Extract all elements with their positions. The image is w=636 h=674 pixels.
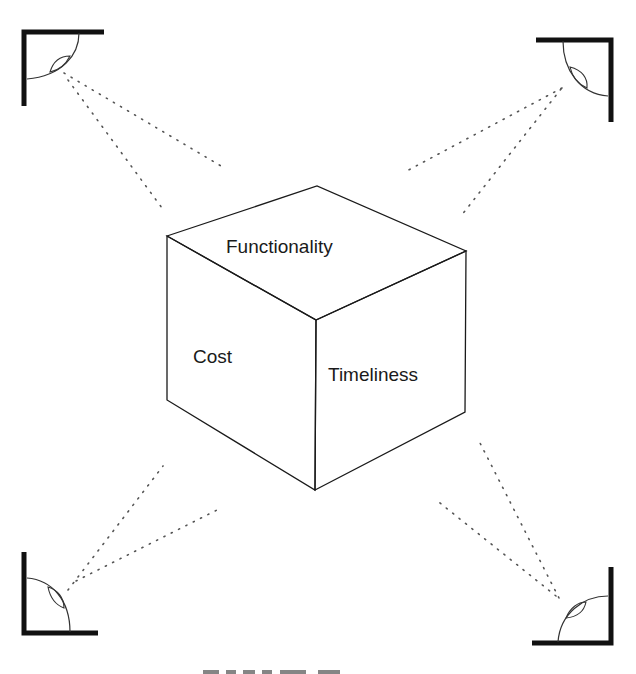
- corner-viewer-icon: [24, 552, 98, 633]
- viewer-top-right: [536, 40, 611, 122]
- face-label-right: Timeliness: [328, 364, 418, 385]
- corner-viewer-icon: [536, 40, 611, 122]
- viewer-bottom-left: [24, 552, 98, 633]
- sight-line-tl-2: [68, 80, 162, 208]
- cube-diagram: Functionality Cost Timeliness: [0, 0, 636, 674]
- sight-line-bl-1: [68, 466, 163, 590]
- viewer-top-left: [24, 32, 104, 106]
- cube: [167, 186, 466, 490]
- face-label-left: Cost: [193, 346, 233, 367]
- corner-viewer-icon: [24, 32, 104, 106]
- corner-viewer-icon: [532, 567, 611, 643]
- sight-lines: [64, 73, 562, 598]
- sight-line-tl-1: [64, 73, 221, 166]
- sight-line-br-1: [478, 439, 559, 598]
- sight-line-tr-2: [461, 89, 561, 216]
- sight-line-br-2: [435, 499, 556, 596]
- sight-line-bl-2: [76, 509, 219, 581]
- cube-left-face: [167, 236, 316, 490]
- figure-caption-cutoff: [203, 670, 340, 674]
- face-label-top: Functionality: [226, 236, 333, 257]
- sight-line-tr-1: [403, 88, 562, 173]
- viewer-bottom-right: [532, 567, 611, 643]
